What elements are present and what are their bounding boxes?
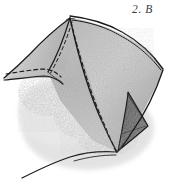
margin-note-clip: M 1/54 [2, 0, 60, 4]
fabric-drapery-drawing [0, 0, 175, 188]
figure-label: 2. B [132, 4, 153, 16]
illustration-plate: 2. B M 1/54 [0, 0, 175, 188]
margin-note: M 1/54 [2, 0, 39, 2]
